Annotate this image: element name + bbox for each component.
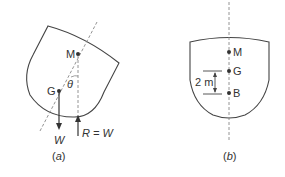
point-m-a [76, 52, 80, 56]
caption-b: (b) [223, 150, 236, 162]
label-g-a: G [47, 85, 56, 97]
figure-b: M G B 2 m (b) [190, 2, 269, 162]
weight-arrow-head-icon [56, 123, 62, 130]
dimension-arrow-down-icon [213, 88, 217, 93]
theta-arc [71, 76, 78, 77]
reaction-label: R = W [82, 127, 114, 139]
figure-a: M G θ W R = W (a) [27, 22, 119, 162]
point-g-b [227, 69, 231, 73]
point-m-b [227, 50, 231, 54]
tilted-centerline-a [40, 22, 97, 131]
hull-outline-a [27, 26, 119, 117]
label-m-a: M [66, 48, 75, 60]
diagram-canvas: M G θ W R = W (a) M G B 2 m (b) [0, 0, 285, 177]
theta-label: θ [67, 78, 73, 90]
label-g-b: G [233, 65, 242, 77]
caption-a: (a) [52, 150, 65, 162]
label-m-b: M [233, 46, 242, 58]
weight-label: W [54, 134, 66, 146]
dimension-arrow-up-icon [213, 72, 217, 77]
label-b-b: B [233, 87, 240, 99]
dimension-label: 2 m [195, 76, 213, 88]
point-b-b [227, 91, 231, 95]
